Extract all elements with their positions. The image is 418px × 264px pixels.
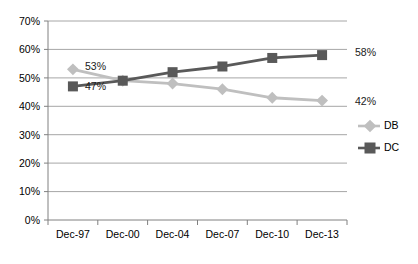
x-axis-label: Dec-13 xyxy=(305,228,339,240)
data-point-dc-5[interactable] xyxy=(317,50,327,60)
y-gridlines xyxy=(48,21,347,192)
line-chart: 70% 60% 50% 40% 30% 20% 10% 0% Dec-97 De… xyxy=(0,0,418,264)
data-point-dc-0[interactable] xyxy=(68,81,78,91)
chart-legend: DB DC xyxy=(358,119,400,153)
legend-item-db[interactable]: DB xyxy=(358,119,399,132)
y-axis-label: 0% xyxy=(25,214,40,226)
annotation-dc-last: 58% xyxy=(355,46,376,58)
x-axis-label: Dec-00 xyxy=(106,228,140,240)
x-axis-label: Dec-97 xyxy=(56,228,90,240)
y-axis-label: 30% xyxy=(19,129,40,141)
y-tickmarks xyxy=(44,21,48,220)
data-point-dc-3[interactable] xyxy=(217,61,227,71)
data-point-db-4[interactable] xyxy=(266,92,278,104)
annotation-db-first: 53% xyxy=(85,60,106,72)
annotation-db-last: 42% xyxy=(355,95,376,107)
chart-canvas: 70% 60% 50% 40% 30% 20% 10% 0% Dec-97 De… xyxy=(0,0,418,264)
data-point-dc-4[interactable] xyxy=(267,53,277,63)
square-icon xyxy=(365,143,376,154)
data-point-db-2[interactable] xyxy=(167,78,179,90)
data-point-dc-1[interactable] xyxy=(118,76,128,86)
x-axis-labels: Dec-97 Dec-00 Dec-04 Dec-07 Dec-10 Dec-1… xyxy=(56,228,339,240)
annotation-dc-first: 47% xyxy=(85,80,106,92)
data-point-db-3[interactable] xyxy=(216,83,228,95)
legend-item-dc[interactable]: DC xyxy=(358,141,400,153)
x-axis-label: Dec-10 xyxy=(255,228,289,240)
data-point-db-0[interactable] xyxy=(67,63,79,75)
x-axis-label: Dec-04 xyxy=(156,228,190,240)
legend-label-dc: DC xyxy=(384,141,400,153)
y-axis-label: 40% xyxy=(19,100,40,112)
legend-label-db: DB xyxy=(384,119,399,131)
y-axis-label: 10% xyxy=(19,185,40,197)
data-annotations: 53% 47% 42% 58% xyxy=(85,46,376,107)
x-tickmarks xyxy=(48,220,347,225)
x-axis-label: Dec-07 xyxy=(205,228,239,240)
data-point-dc-2[interactable] xyxy=(168,67,178,77)
y-axis-labels: 70% 60% 50% 40% 30% 20% 10% 0% xyxy=(19,15,40,226)
diamond-icon xyxy=(364,120,377,133)
y-axis-label: 60% xyxy=(19,43,40,55)
series-line-dc xyxy=(73,55,322,86)
y-axis-label: 20% xyxy=(19,157,40,169)
y-axis-label: 50% xyxy=(19,72,40,84)
data-point-db-5[interactable] xyxy=(316,95,328,107)
series-line-db xyxy=(73,69,322,100)
y-axis-label: 70% xyxy=(19,15,40,27)
